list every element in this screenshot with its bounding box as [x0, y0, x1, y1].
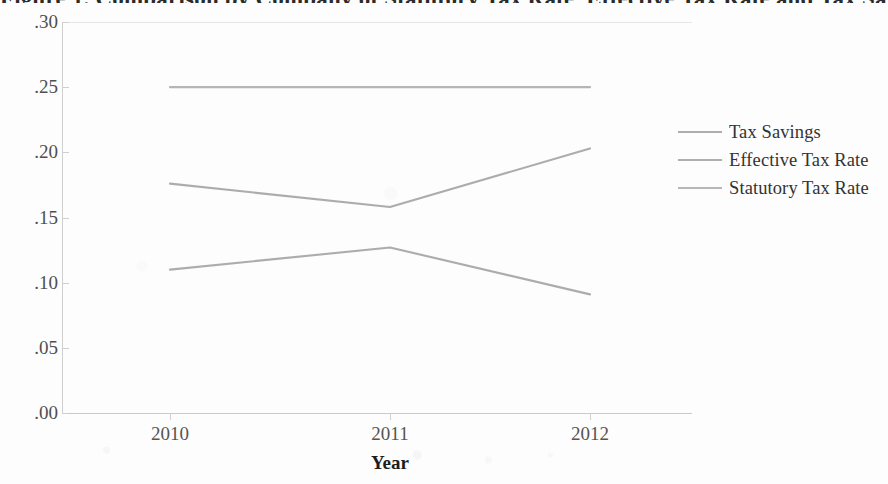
legend-line-swatch-icon [678, 187, 722, 189]
y-axis-tick [62, 152, 69, 153]
y-axis-tick-label: .05 [12, 338, 58, 357]
x-axis-tick [590, 413, 591, 420]
y-axis-tick-label: .25 [12, 77, 58, 96]
y-axis-tick [62, 22, 69, 23]
y-axis-tick-label: .00 [12, 403, 58, 422]
legend-item[interactable]: Statutory Tax Rate [678, 174, 883, 202]
x-axis-tick-label: 2011 [335, 423, 445, 445]
chart-legend: Tax SavingsEffective Tax RateStatutory T… [678, 118, 883, 202]
y-axis-labels: .30.25.20.15.10.05.00 [0, 0, 58, 484]
chart-title: Figure 1. Comparison by Company of Statu… [0, 0, 888, 3]
x-axis-title: Year [335, 452, 445, 474]
x-axis-tick [390, 413, 391, 420]
y-axis-tick-label: .10 [12, 273, 58, 292]
y-axis-tick-label: .20 [12, 142, 58, 161]
y-axis-tick [62, 283, 69, 284]
y-axis-tick [62, 87, 69, 88]
legend-line-swatch-icon [678, 159, 722, 161]
y-axis-tick-label: .30 [12, 12, 58, 31]
x-axis-tick-label: 2012 [535, 423, 645, 445]
y-axis-tick [62, 348, 69, 349]
legend-item-label: Statutory Tax Rate [729, 178, 869, 199]
plot-frame [62, 22, 692, 414]
y-axis-tick [62, 413, 69, 414]
x-axis-tick-label: 2010 [115, 423, 225, 445]
x-axis-tick [170, 413, 171, 420]
legend-line-swatch-icon [678, 131, 722, 133]
y-axis-tick-label: .15 [12, 208, 58, 227]
x-axis-line [62, 413, 692, 414]
chart-figure: Figure 1. Comparison by Company of Statu… [0, 0, 888, 484]
legend-item-label: Tax Savings [729, 122, 821, 143]
legend-item-label: Effective Tax Rate [729, 150, 869, 171]
legend-item[interactable]: Tax Savings [678, 118, 883, 146]
y-axis-tick [62, 218, 69, 219]
legend-item[interactable]: Effective Tax Rate [678, 146, 883, 174]
